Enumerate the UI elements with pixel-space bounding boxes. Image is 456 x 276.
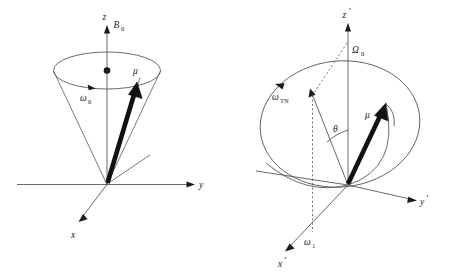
x-axis: x: [70, 185, 107, 241]
magnetic-moment-vector: μ: [108, 66, 143, 183]
x-prime-axis-arrowhead: [285, 243, 295, 251]
theta-label: θ: [333, 124, 338, 134]
y-prime-axis-label-group: y ′: [419, 194, 429, 207]
b0-field-label: B: [114, 20, 120, 30]
omega0-label: ω: [80, 93, 87, 103]
offset-label-group: Ω 0: [352, 45, 365, 57]
nutation-circle: [254, 53, 426, 195]
omega-tn-subscript: TN: [280, 97, 289, 104]
omega-offset-subscript: 0: [361, 50, 365, 57]
omega-tn-direction-marker: ω TN: [272, 83, 289, 104]
mu-vector-shaft: [108, 93, 135, 183]
effective-field-vector: [309, 89, 348, 186]
theta-angle-arc: θ: [327, 124, 348, 142]
y-prime-axis-line: [348, 185, 410, 199]
figure-root: y z B 0 x ω: [0, 0, 456, 276]
panel-right-nutation-sphere: y ′ z ′ x ′ ω 1: [228, 0, 456, 276]
omega1-label: ω: [304, 237, 311, 247]
omega-offset-label: Ω: [352, 45, 359, 55]
x-prime-axis-line: [290, 185, 348, 246]
dashed-cone-line: [313, 43, 348, 95]
effective-field-line: [313, 95, 349, 185]
x-prime-axis-label-group: x ′: [277, 256, 287, 269]
x-axis-line: [83, 185, 107, 217]
omega1-subscript: 1: [312, 242, 315, 249]
panel-left-precession-cone: y z B 0 x ω: [0, 0, 228, 276]
z-prime-axis: z ′: [342, 7, 352, 185]
x-axis-label: x: [70, 230, 76, 240]
b0-field-label-group: B 0: [114, 20, 126, 32]
x-axis-arrowhead: [79, 214, 88, 222]
z-prime-axis-label-group: z ′: [342, 7, 352, 20]
y-prime-axis: y ′: [348, 185, 429, 207]
y-prime-axis-prime: ′: [427, 194, 429, 204]
mu-label: μ: [364, 110, 370, 120]
omega0-subscript: 0: [88, 98, 92, 105]
y-prime-axis-label: y: [419, 197, 425, 207]
x-prime-axis-prime: ′: [285, 256, 287, 266]
omega1-label-group: ω 1: [304, 237, 315, 249]
mu-label: μ: [132, 66, 138, 76]
cone-left-edge: [54, 71, 108, 185]
x-prime-axis-label: x: [277, 259, 283, 269]
b0-field-subscript: 0: [121, 25, 125, 32]
magnetic-moment-vector: μ: [348, 103, 388, 184]
omega0-arrowhead: [88, 85, 96, 91]
y-axis-arrowhead: [187, 181, 196, 187]
mu-vector-arrowhead: [129, 82, 143, 99]
cone-axis-dot: [104, 67, 111, 74]
omega-tn-label: ω: [272, 92, 279, 102]
mu-vector-shaft: [348, 116, 380, 184]
z-axis-arrowhead: [104, 25, 110, 34]
horizon-line: [256, 171, 348, 185]
z-prime-axis-prime: ′: [349, 7, 351, 17]
z-prime-axis-label: z: [342, 10, 347, 20]
z-prime-axis-arrowhead: [345, 23, 351, 32]
z-axis: z: [102, 12, 111, 185]
y-axis-label: y: [198, 180, 204, 190]
z-axis-label: z: [102, 12, 107, 22]
y-prime-axis-arrowhead: [407, 197, 417, 203]
